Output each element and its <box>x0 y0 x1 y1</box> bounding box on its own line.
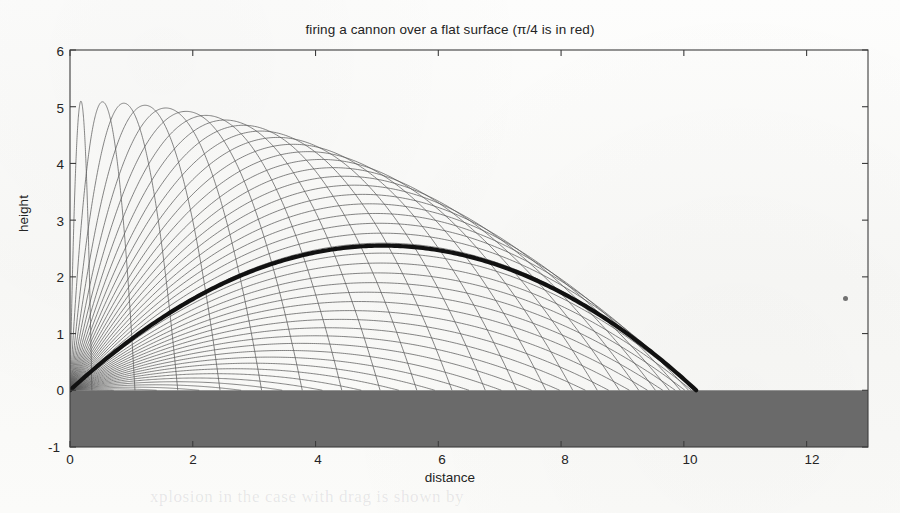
highlighted-trajectory-pi-over-4 <box>70 246 696 391</box>
x-tick-6: 6 <box>438 452 446 467</box>
x-tick-10: 10 <box>682 452 697 467</box>
y-tick-2: 2 <box>38 270 64 285</box>
x-tick-8: 8 <box>561 452 569 467</box>
y-tick-6: 6 <box>38 44 64 59</box>
x-tick-12: 12 <box>804 452 819 467</box>
bleedthrough-ghost-text: xplosion in the case with drag is shown … <box>150 487 464 507</box>
scan-speck <box>843 296 848 301</box>
y-tick-1: 1 <box>38 327 64 342</box>
x-tick-0: 0 <box>66 452 74 467</box>
x-axis-label: distance <box>0 470 900 485</box>
matlab-figure: firing a cannon over a flat surface (π/4… <box>0 0 900 513</box>
y-tick-0: 0 <box>38 383 64 398</box>
y-tick-3: 3 <box>38 214 64 229</box>
figure-title: firing a cannon over a flat surface (π/4… <box>0 22 900 37</box>
tick-marks <box>70 50 868 447</box>
axes-box <box>70 50 868 447</box>
y-tick-4: 4 <box>38 157 64 172</box>
x-tick-2: 2 <box>189 452 197 467</box>
y-tick-5: 5 <box>38 101 64 116</box>
y-tick-neg1: -1 <box>34 440 60 455</box>
x-tick-4: 4 <box>314 452 322 467</box>
ground-band <box>70 390 868 447</box>
y-axis-label: height <box>16 174 31 254</box>
plot-area <box>0 0 900 513</box>
